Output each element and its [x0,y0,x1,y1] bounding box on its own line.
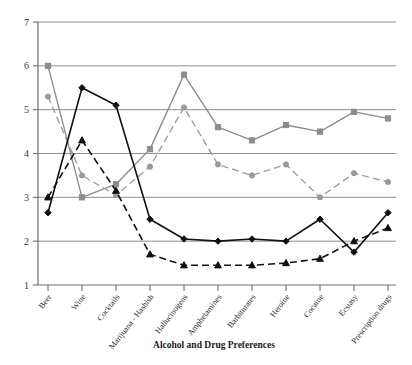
marker-circle [385,179,390,184]
y-tick-label-2: 2 [24,236,29,247]
marker-circle [249,173,254,178]
marker-circle [283,162,288,167]
marker-circle [45,94,50,99]
marker-square [79,195,84,200]
marker-square [385,116,390,121]
marker-square [215,125,220,130]
marker-square [317,129,322,134]
marker-square [113,182,118,187]
chart-container: 1234567 BeerWineCocktailsMarijuana - Has… [0,0,412,365]
marker-circle [181,105,186,110]
marker-square [181,72,186,77]
marker-circle [215,162,220,167]
marker-circle [147,164,152,169]
marker-square [283,122,288,127]
marker-square [147,147,152,152]
marker-square [249,138,254,143]
y-tick-label-3: 3 [24,192,29,203]
marker-circle [317,195,322,200]
y-tick-label-4: 4 [24,148,29,159]
y-tick-label-5: 5 [24,104,29,115]
marker-circle [79,173,84,178]
marker-circle [351,171,356,176]
x-axis-title: Alcohol and Drug Preferences [153,340,275,350]
y-tick-label-6: 6 [24,60,29,71]
marker-square [351,109,356,114]
y-tick-label-7: 7 [24,17,29,28]
y-tick-label-1: 1 [24,280,29,291]
line-chart: 1234567 BeerWineCocktailsMarijuana - Has… [0,0,412,365]
marker-square [45,63,50,68]
